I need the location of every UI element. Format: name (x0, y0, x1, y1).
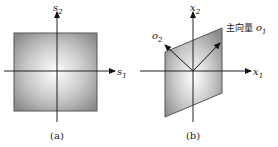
o1-annotation: 主向量o1 (226, 22, 267, 36)
s1-axis-label: s1 (117, 66, 127, 80)
panel-b: x1 x2 o2 主向量o1 (b) (140, 2, 267, 141)
panel-a-caption: (a) (50, 130, 64, 141)
s2-axis-label: s2 (53, 2, 63, 16)
figure-canvas: s1 s2 (a) x1 x2 o2 主向量o1 (b) (0, 0, 278, 147)
panel-a: s1 s2 (a) (4, 2, 127, 141)
x1-axis-label: x1 (253, 66, 263, 80)
x2-axis-label: x2 (190, 2, 201, 16)
panel-b-caption: (b) (186, 130, 200, 141)
o2-label: o2 (152, 30, 163, 44)
uniform-distribution-square (14, 33, 97, 111)
